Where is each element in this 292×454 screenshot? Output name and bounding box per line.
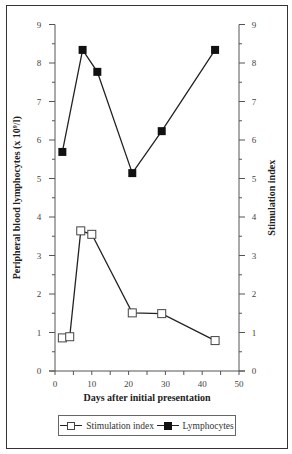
- left-y-tick-label: 4: [37, 212, 42, 222]
- open-square-marker-icon: [77, 227, 85, 235]
- legend-item-lymphocytes: Lymphocytes: [157, 421, 234, 431]
- legend-item-stimulation-index: Stimulation index: [60, 421, 154, 431]
- filled-square-marker-icon: [211, 46, 219, 54]
- right-y-tick-label: 1: [252, 328, 257, 338]
- series-line-lymphocytes: [62, 50, 215, 173]
- right-y-tick-label: 0: [252, 366, 257, 376]
- filled-square-marker-icon: [157, 421, 179, 431]
- right-y-tick-label: 9: [252, 20, 257, 30]
- x-tick-label: 10: [87, 379, 97, 389]
- left-y-tick-label: 6: [37, 135, 42, 145]
- left-y-tick-label: 7: [37, 97, 42, 107]
- right-y-tick-label: 3: [252, 251, 257, 261]
- left-y-tick-label: 2: [37, 289, 42, 299]
- series-line-stimulation-index: [62, 231, 215, 341]
- left-y-tick-label: 9: [37, 20, 42, 30]
- left-y-tick-label: 8: [37, 58, 42, 68]
- right-y-tick-label: 2: [252, 289, 257, 299]
- legend-label: Lymphocytes: [183, 421, 234, 431]
- open-square-marker-icon: [211, 337, 219, 345]
- filled-square-marker-icon: [58, 148, 66, 156]
- left-y-tick-label: 1: [37, 328, 42, 338]
- open-square-marker-icon: [158, 310, 166, 318]
- filled-square-marker-icon: [79, 46, 87, 54]
- open-square-marker-icon: [60, 421, 82, 431]
- right-y-tick-label: 4: [252, 212, 257, 222]
- x-tick-label: 40: [198, 379, 208, 389]
- left-y-tick-label: 3: [37, 251, 42, 261]
- left-y-axis-title: Peripheral blood lymphocytes (x 10⁹/l): [11, 116, 23, 279]
- open-square-marker-icon: [88, 230, 96, 238]
- left-y-tick-label: 0: [37, 366, 42, 376]
- filled-square-marker-icon: [93, 68, 101, 76]
- x-tick-label: 50: [235, 379, 245, 389]
- open-square-marker-icon: [128, 309, 136, 317]
- right-y-tick-label: 5: [252, 174, 257, 184]
- legend: Stimulation index Lymphocytes: [58, 415, 236, 436]
- filled-square-marker-icon: [128, 169, 136, 177]
- filled-square-marker-icon: [158, 127, 166, 135]
- x-tick-label: 30: [161, 379, 171, 389]
- x-tick-label: 0: [53, 379, 58, 389]
- open-square-marker-icon: [66, 333, 74, 341]
- x-axis-title: Days after initial presentation: [83, 392, 211, 403]
- x-tick-label: 20: [124, 379, 134, 389]
- right-y-axis-title: Stimulation index: [266, 160, 277, 236]
- right-y-tick-label: 6: [252, 135, 257, 145]
- legend-label: Stimulation index: [86, 421, 154, 431]
- right-y-tick-label: 7: [252, 97, 257, 107]
- right-y-tick-label: 8: [252, 58, 257, 68]
- line-chart: 0011223344556677889901020304050Days afte…: [0, 0, 292, 454]
- open-square-marker-icon: [58, 334, 66, 342]
- left-y-tick-label: 5: [37, 174, 42, 184]
